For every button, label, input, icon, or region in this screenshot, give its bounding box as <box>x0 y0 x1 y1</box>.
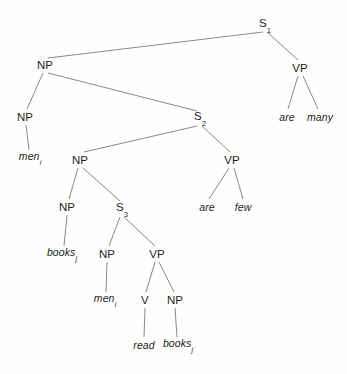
tree-node-subscript: 1 <box>267 26 271 35</box>
tree-node-vp2: VP <box>224 154 240 166</box>
tree-node-text: VP <box>149 248 165 260</box>
tree-node-s3: S3 <box>116 201 128 216</box>
tree-leaf-books2: booksj <box>163 337 193 352</box>
tree-leaf-text: are <box>199 201 214 213</box>
tree-leaf-text: books <box>47 246 76 258</box>
tree-leaf-subscript: i <box>40 159 42 168</box>
tree-node-text: NP <box>72 154 88 166</box>
tree-node-s2: S2 <box>194 110 206 125</box>
tree-node-text: NP <box>37 59 53 71</box>
tree-edge-vp3-np6 <box>159 262 174 292</box>
tree-edge-np6-books2 <box>175 308 177 337</box>
tree-node-text: NP <box>17 111 33 123</box>
tree-node-np6: NP <box>167 294 183 306</box>
tree-node-subscript: 2 <box>202 119 206 128</box>
tree-leaf-text: are <box>279 111 294 123</box>
tree-node-text: S <box>194 110 202 122</box>
tree-leaf-subscript: i <box>115 301 117 310</box>
tree-node-text: NP <box>167 294 183 306</box>
tree-node-vp1: VP <box>292 62 308 74</box>
tree-node-np5: NP <box>99 248 115 260</box>
tree-edge-s2-vp2 <box>202 126 230 152</box>
tree-leaf-text: men <box>19 150 40 162</box>
tree-edge-vp3-v1 <box>146 262 155 292</box>
tree-edge-np3-s3 <box>83 168 120 201</box>
tree-edge-vp1-many1 <box>303 76 318 109</box>
tree-node-subscript: 3 <box>124 210 128 219</box>
tree-node-vp3: VP <box>149 248 165 260</box>
tree-edge-s2-np3 <box>84 126 197 152</box>
tree-leaf-text: men <box>94 292 115 304</box>
tree-edge-np1-s2 <box>48 73 197 111</box>
tree-edge-s1-np1 <box>48 32 263 58</box>
tree-node-text: S <box>116 201 124 213</box>
tree-node-text: V <box>141 294 149 306</box>
tree-edge-v1-read1 <box>144 308 145 337</box>
tree-edge-vp1-are1 <box>288 76 298 109</box>
syntax-tree-figure: S1NPVPNPS2NPVPNPS3NPVPVNParemanymeniaref… <box>0 0 347 374</box>
tree-leaf-books1: booksj <box>47 246 77 261</box>
tree-leaf-are2: are <box>199 201 214 213</box>
tree-leaf-text: many <box>307 111 333 123</box>
tree-leaf-read1: read <box>133 339 154 351</box>
tree-node-text: NP <box>59 201 75 213</box>
tree-leaf-men1: meni <box>19 150 41 165</box>
tree-edge-np2-men1 <box>26 125 29 150</box>
tree-edge-vp2-few1 <box>234 168 243 199</box>
tree-node-np3: NP <box>72 154 88 166</box>
tree-edge-s3-vp3 <box>124 217 155 246</box>
tree-node-text: VP <box>224 154 240 166</box>
tree-leaf-text: few <box>235 201 252 213</box>
tree-edge-np5-men2 <box>106 262 107 292</box>
tree-edge-s1-vp1 <box>267 32 298 60</box>
tree-leaf-men2: meni <box>94 292 116 307</box>
tree-leaf-text: books <box>163 337 192 349</box>
tree-node-np1: NP <box>37 59 53 71</box>
tree-edge-np3-np4 <box>69 168 78 199</box>
tree-edge-vp2-are2 <box>209 168 229 199</box>
tree-edge-s3-np5 <box>109 217 120 246</box>
tree-node-v1: V <box>141 294 149 306</box>
tree-node-s1: S1 <box>259 17 271 32</box>
tree-node-text: S <box>259 17 267 29</box>
tree-node-np4: NP <box>59 201 75 213</box>
tree-node-text: VP <box>292 62 308 74</box>
tree-edge-np4-books1 <box>64 215 67 246</box>
tree-leaf-few1: few <box>235 201 252 213</box>
tree-node-np2: NP <box>17 111 33 123</box>
tree-leaf-many1: many <box>307 111 333 123</box>
tree-node-text: NP <box>99 248 115 260</box>
tree-leaf-text: read <box>133 339 154 351</box>
tree-edge-np1-np2 <box>27 73 43 109</box>
tree-leaf-are1: are <box>279 111 294 123</box>
tree-edges-svg <box>0 0 347 374</box>
